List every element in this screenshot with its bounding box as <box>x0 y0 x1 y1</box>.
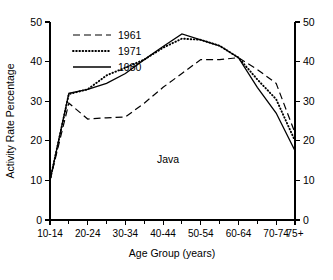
x-tick-label: 75+ <box>287 228 304 239</box>
y-tick-label-right: 50 <box>303 16 315 28</box>
x-tick-label: 50-54 <box>188 228 214 239</box>
y-tick-label-right: 30 <box>303 95 315 107</box>
y-tick-label-left: 50 <box>30 16 42 28</box>
y-tick-label-left: 20 <box>30 134 42 146</box>
chart-container: 01020304050 01020304050 10-1420-2430-344… <box>0 0 333 280</box>
y-tick-label-left: 0 <box>36 214 42 226</box>
chart-annotation-label: Java <box>157 153 179 165</box>
y-tick-label-left: 40 <box>30 55 42 67</box>
x-tick-label: 20-24 <box>75 228 101 239</box>
y-tick-label-right: 0 <box>303 214 309 226</box>
legend-label-1980: 1980 <box>118 61 142 73</box>
legend-label-1971: 1971 <box>118 45 142 57</box>
y-tick-label-left: 10 <box>30 174 42 186</box>
activity-rate-line-chart: 01020304050 01020304050 10-1420-2430-344… <box>0 0 333 280</box>
y-tick-label-right: 10 <box>303 174 315 186</box>
y-tick-label-right: 20 <box>303 134 315 146</box>
x-tick-label: 10-14 <box>37 228 63 239</box>
y-axis-title: Activity Rate Percentage <box>4 63 16 178</box>
x-tick-label: 30-34 <box>113 228 139 239</box>
legend-label-1961: 1961 <box>118 29 142 41</box>
y-tick-label-right: 40 <box>303 55 315 67</box>
y-tick-label-left: 30 <box>30 95 42 107</box>
x-tick-label: 60-64 <box>226 228 252 239</box>
x-axis-title: Age Group (years) <box>129 247 215 259</box>
x-tick-label: 70-74 <box>263 228 289 239</box>
x-tick-label: 40-44 <box>150 228 176 239</box>
